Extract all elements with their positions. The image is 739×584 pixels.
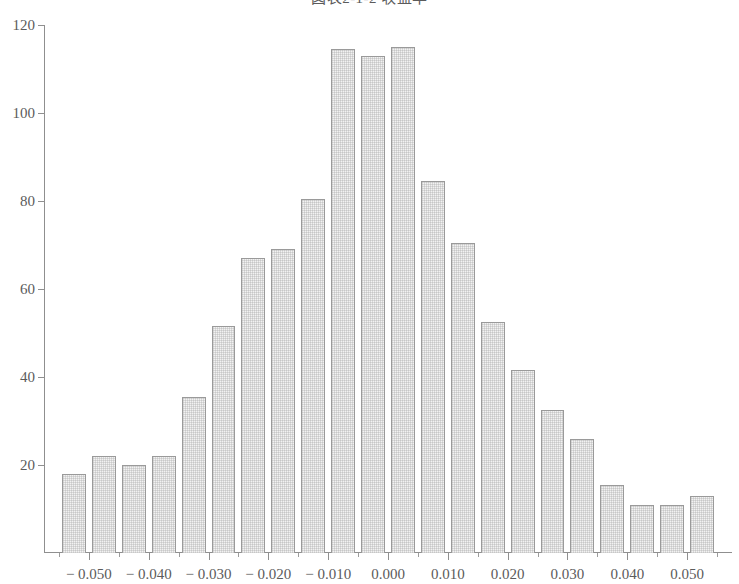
x-axis-tick [508,553,509,560]
x-axis-minor-tick [657,553,658,557]
x-axis-minor-tick [418,553,419,557]
x-axis-label: − 0.050 [66,566,112,583]
histogram-bar [481,322,505,553]
y-axis-tick [38,25,45,26]
y-axis-label: 60 [20,281,35,298]
histogram-bar [62,474,86,553]
histogram-bar [271,249,295,553]
x-axis-tick [448,553,449,560]
y-axis-label: 100 [13,105,36,122]
x-axis-minor-tick [717,553,718,557]
y-axis-label: 120 [13,17,36,34]
x-axis-minor-tick [59,553,60,557]
y-axis-tick [38,201,45,202]
page-title: 図表2-1-2 収益率 [0,0,739,5]
histogram-bar [92,456,116,553]
x-axis-minor-tick [358,553,359,557]
histogram-bar [511,370,535,553]
y-axis-tick [38,113,45,114]
histogram-bar [421,181,445,553]
x-axis-label: − 0.020 [245,566,291,583]
histogram-figure: 図表2-1-2 収益率 20406080100120 − 0.050− 0.04… [0,0,739,584]
y-axis-label: 40 [20,369,35,386]
x-axis-tick [149,553,150,560]
x-axis-minor-tick [597,553,598,557]
x-axis-tick [89,553,90,560]
x-axis-minor-tick [538,553,539,557]
histogram-bar [541,410,565,553]
y-axis-tick [38,289,45,290]
y-axis-label: 80 [20,193,35,210]
x-axis-label: 0.020 [491,566,525,583]
histogram-bar [600,485,624,553]
histogram-bar [451,243,475,553]
x-axis-label: 0.010 [431,566,465,583]
x-axis-label: 0.030 [551,566,585,583]
histogram-bar [660,505,684,553]
histogram-bar [391,47,415,553]
histogram-bar [630,505,654,553]
x-axis-label: − 0.030 [186,566,232,583]
histogram-bar [331,49,355,553]
histogram-bar [301,199,325,553]
histogram-bar [182,397,206,553]
x-axis-tick [687,553,688,560]
x-axis-tick [567,553,568,560]
x-axis-minor-tick [179,553,180,557]
x-axis-minor-tick [119,553,120,557]
x-axis-label: 0.040 [610,566,644,583]
histogram-bar [152,456,176,553]
x-axis-tick [627,553,628,560]
y-axis-tick [38,465,45,466]
x-axis-label: 0.000 [371,566,405,583]
histogram-bar [570,439,594,553]
histogram-bar [212,326,236,553]
histogram-bar [241,258,265,553]
x-axis-label: 0.050 [670,566,704,583]
x-axis-minor-tick [478,553,479,557]
y-axis-tick [38,377,45,378]
histogram-bar [690,496,714,553]
y-axis-label: 20 [20,457,35,474]
histogram-bar [122,465,146,553]
x-axis-tick [209,553,210,560]
x-axis-minor-tick [298,553,299,557]
histogram-bar [361,56,385,553]
plot-area: 20406080100120 − 0.050− 0.040− 0.030− 0.… [44,25,732,553]
x-axis-label: − 0.040 [126,566,172,583]
x-axis-tick [328,553,329,560]
x-axis-minor-tick [238,553,239,557]
x-axis-label: − 0.010 [305,566,351,583]
x-axis-tick [388,553,389,560]
x-axis-tick [268,553,269,560]
